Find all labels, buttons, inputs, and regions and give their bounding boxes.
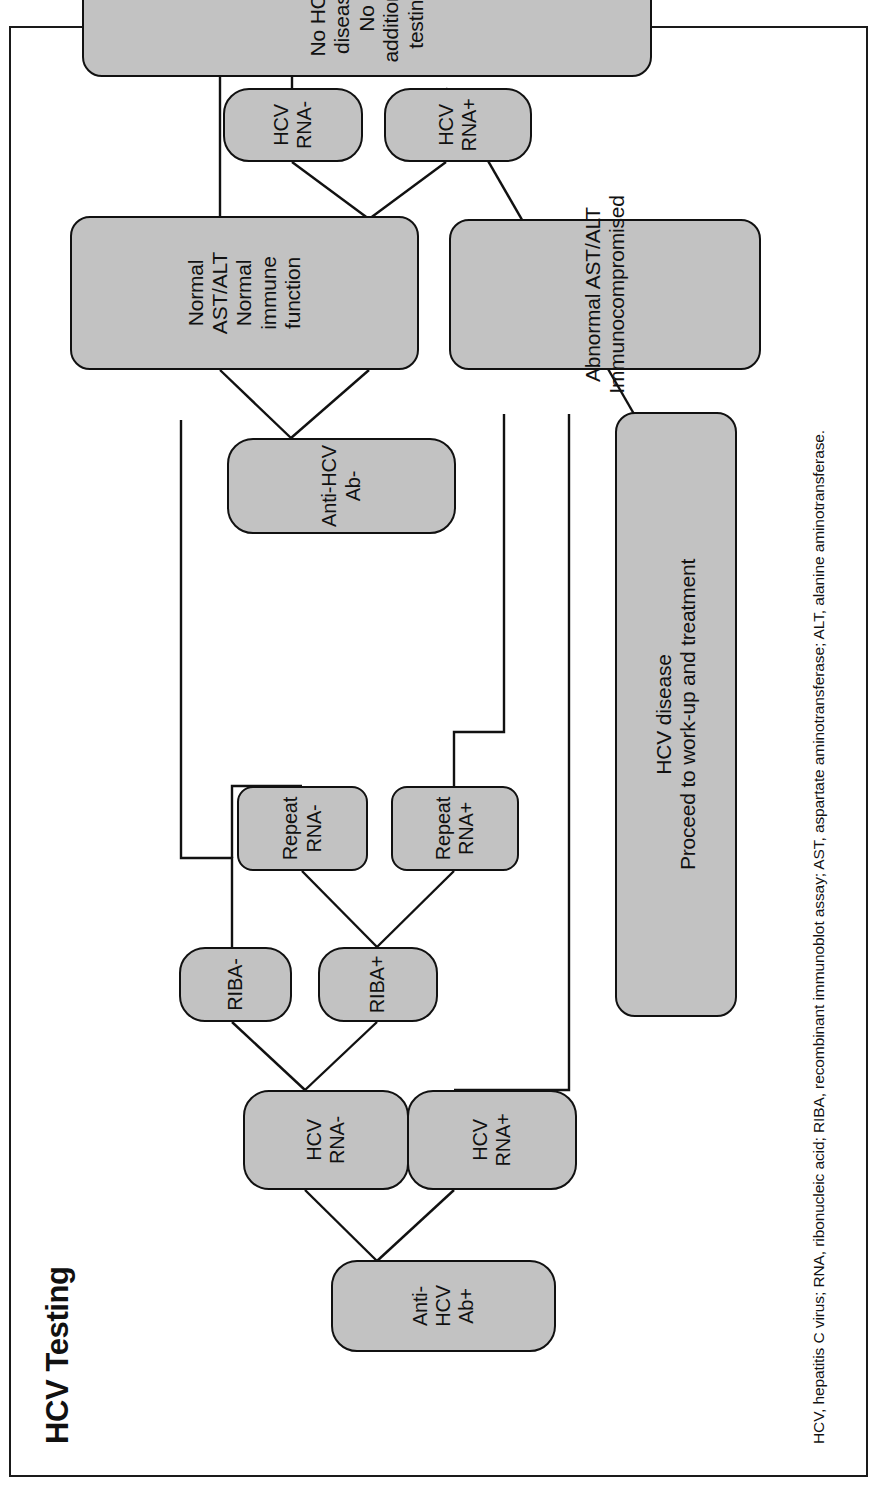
- node-abnormal-ast-alt[interactable]: Abnormal AST/ALT Immunocompromised: [449, 219, 761, 370]
- node-label: HCV RNA+: [434, 94, 480, 156]
- node-label: HCV RNA-: [302, 1096, 348, 1184]
- edge-abneg-to-normal: [220, 370, 291, 438]
- node-label: Repeat RNA+: [431, 796, 477, 859]
- edge-abnormal-to-rnaneg-b: [292, 162, 369, 219]
- edge-abpos-to-rnaneg: [305, 1190, 377, 1261]
- node-label: HCV disease Proceed to work-up and treat…: [651, 558, 700, 869]
- node-hcv-rna-positive-b[interactable]: HCV RNA+: [384, 88, 532, 162]
- node-anti-hcv-ab-positive[interactable]: Anti-HCV Ab+: [331, 1260, 556, 1352]
- node-no-hcv-disease-outcome[interactable]: No HCV disease No additional testing: [82, 0, 652, 77]
- node-label: RIBA-: [223, 958, 246, 1010]
- node-normal-ast-alt[interactable]: Normal AST/ALT Normal immune function: [70, 216, 419, 370]
- node-label: Normal AST/ALT Normal immune function: [183, 222, 305, 364]
- node-hcv-rna-positive-a[interactable]: HCV RNA+: [407, 1090, 577, 1190]
- node-label: RIBA+: [366, 955, 389, 1012]
- figure-page: HCV Testing: [0, 0, 880, 1502]
- edge-ribapos-to-repeat-rnapos: [377, 871, 454, 947]
- edge-abpos-to-rnapos: [377, 1190, 454, 1261]
- page-title: HCV Testing: [40, 1266, 76, 1444]
- edge-repeat-rnapos-to-disease: [454, 414, 504, 786]
- node-label: Anti-HCV Ab+: [408, 1266, 478, 1346]
- figure-footnote: HCV, hepatitis C virus; RNA, ribonucleic…: [810, 429, 828, 1443]
- edge-abneg-to-abnormal: [291, 370, 369, 438]
- rotated-figure-canvas: HCV Testing: [24, 42, 854, 1462]
- node-riba-positive[interactable]: RIBA+: [318, 947, 438, 1022]
- node-label: No HCV disease No additional testing: [306, 0, 428, 71]
- figure-frame: HCV Testing: [9, 26, 868, 1477]
- node-hcv-rna-negative-b[interactable]: HCV RNA-: [223, 88, 363, 162]
- edge-rnapos-a-to-disease: [454, 414, 569, 1090]
- edge-rnaneg-to-ribaneg: [232, 1022, 305, 1090]
- node-label: Anti-HCV Ab-: [318, 444, 364, 528]
- node-repeat-rna-negative[interactable]: Repeat RNA-: [237, 786, 368, 871]
- node-hcv-rna-negative-a[interactable]: HCV RNA-: [243, 1090, 409, 1190]
- node-label: HCV RNA-: [269, 94, 315, 156]
- node-repeat-rna-positive[interactable]: Repeat RNA+: [391, 786, 519, 871]
- node-label: Repeat RNA-: [279, 796, 325, 859]
- node-hcv-disease-outcome[interactable]: HCV disease Proceed to work-up and treat…: [615, 412, 737, 1017]
- edge-rnaneg-to-ribapos: [305, 1022, 377, 1090]
- node-anti-hcv-ab-negative[interactable]: Anti-HCV Ab-: [227, 438, 456, 534]
- node-riba-negative[interactable]: RIBA-: [179, 947, 292, 1022]
- node-label: HCV RNA+: [468, 1096, 514, 1184]
- node-label: Abnormal AST/ALT Immunocompromised: [580, 195, 629, 394]
- edge-ribapos-to-repeat-rnaneg: [302, 871, 377, 947]
- edge-ribaneg-to-no-disease: [181, 420, 232, 947]
- edge-abnormal-to-rnapos-b: [369, 162, 446, 219]
